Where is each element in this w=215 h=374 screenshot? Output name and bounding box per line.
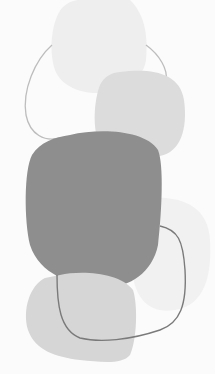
artwork-canvas [0,0,215,374]
bottom-grey-blob [26,273,136,362]
dark-grey-blob [26,131,162,287]
abstract-artwork [0,0,215,374]
